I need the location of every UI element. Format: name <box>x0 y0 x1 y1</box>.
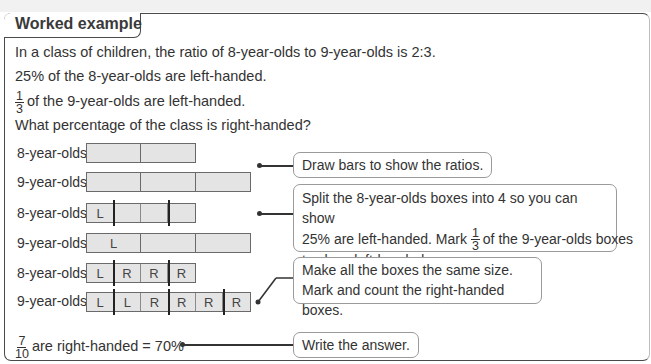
connector-line <box>260 213 295 215</box>
callout-text: 25% are left-handed. Mark 13of the 9-yea… <box>302 228 608 250</box>
row-label: 8-year-olds <box>17 205 87 221</box>
callout-text: Mark and count the right-handed boxes. <box>302 280 533 320</box>
split-mark <box>113 200 115 226</box>
bar-9yo-step1 <box>86 172 251 192</box>
fraction-seven-tenths: 710 <box>15 335 29 360</box>
bar-8yo-step2: L <box>86 203 196 223</box>
bar-cell <box>141 204 168 222</box>
bar-cell: R <box>141 264 168 282</box>
bar-cell: R <box>169 293 196 311</box>
row-label: 9-year-olds <box>17 174 87 190</box>
connector-line <box>183 344 295 346</box>
fraction-one-third: 13 <box>471 227 480 252</box>
bar-cell <box>196 173 250 191</box>
bar-cell <box>141 144 195 162</box>
bar-cell: L <box>87 204 114 222</box>
problem-line-2: 25% of the 8-year-olds are left-handed. <box>15 68 266 84</box>
bar-cell: L <box>87 264 114 282</box>
bar-cell <box>141 234 195 252</box>
bar-cell <box>196 234 250 252</box>
callout-text: Split the 8-year-olds boxes into 4 so yo… <box>302 188 608 228</box>
split-mark <box>113 260 115 286</box>
bar-cell: R <box>223 293 250 311</box>
bar-cell: L <box>87 234 141 252</box>
row-label: 9-year-olds <box>17 293 87 309</box>
split-mark <box>113 289 115 315</box>
problem-line-1: In a class of children, the ratio of 8-y… <box>15 44 436 60</box>
problem-question: What percentage of the class is right-ha… <box>15 117 311 133</box>
row-label: 8-year-olds <box>17 265 87 281</box>
bar-cell: R <box>141 293 168 311</box>
top-strip <box>0 0 651 12</box>
bar-cell <box>141 173 195 191</box>
split-mark <box>168 200 170 226</box>
connector-line <box>260 165 295 167</box>
bar-cell: L <box>87 293 114 311</box>
row-label: 8-year-olds <box>17 145 87 161</box>
bar-9yo-step2: L <box>86 233 251 253</box>
row-label: 9-year-olds <box>17 235 87 251</box>
split-mark <box>168 260 170 286</box>
callout-step-4: Write the answer. <box>293 332 419 358</box>
section-title: Worked example <box>15 15 142 33</box>
bar-cell: R <box>196 293 223 311</box>
callout-step-2: Split the 8-year-olds boxes into 4 so yo… <box>293 184 617 252</box>
split-mark <box>168 289 170 315</box>
bar-8yo-step1 <box>86 143 196 163</box>
fraction-one-third: 13 <box>15 90 24 115</box>
callout-step-1: Draw bars to show the ratios. <box>293 152 492 178</box>
bar-cell: L <box>114 293 141 311</box>
bar-cell <box>87 144 141 162</box>
bar-cell <box>87 173 141 191</box>
bar-cell <box>114 204 141 222</box>
callout-text: Make all the boxes the same size. <box>302 260 533 280</box>
bar-cell: R <box>168 264 195 282</box>
split-mark <box>223 289 225 315</box>
callout-step-3: Make all the boxes the same size. Mark a… <box>293 257 542 304</box>
answer-line: 710are right-handed = 70% <box>15 335 184 360</box>
problem-line-3: 13of the 9-year-olds are left-handed. <box>15 90 245 115</box>
bar-cell: R <box>114 264 141 282</box>
bar-8yo-step3: L R R R <box>86 263 196 283</box>
bar-cell <box>168 204 195 222</box>
